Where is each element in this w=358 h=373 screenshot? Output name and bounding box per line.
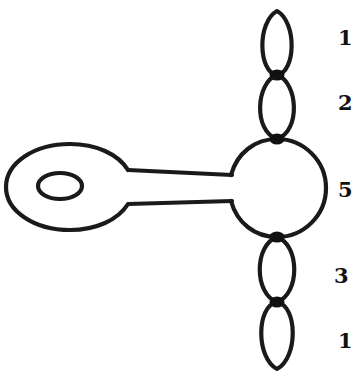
center-circle-group bbox=[231, 139, 326, 237]
center-circle-upper-left-arc bbox=[231, 139, 277, 175]
node-top-1 bbox=[270, 70, 285, 81]
bottom-inner-loop bbox=[260, 237, 295, 302]
top-outer-loop bbox=[262, 11, 291, 75]
figure-container: 1 2 5 3 1 bbox=[0, 0, 358, 373]
left-handle-upper-arc bbox=[70, 144, 128, 170]
center-circle-lower-left-arc bbox=[231, 201, 277, 237]
plumbing-diagram-svg bbox=[0, 0, 358, 373]
left-handle-hole bbox=[38, 173, 82, 199]
node-bottom-1 bbox=[270, 232, 285, 243]
left-handle-group bbox=[6, 144, 232, 230]
top-inner-loop bbox=[260, 75, 294, 139]
center-circle-right-half bbox=[277, 139, 326, 237]
node-top-2 bbox=[270, 134, 285, 145]
node-bottom-2 bbox=[270, 297, 285, 308]
plumbing-nodes-group bbox=[270, 70, 285, 308]
bottom-outer-loop bbox=[261, 302, 293, 369]
